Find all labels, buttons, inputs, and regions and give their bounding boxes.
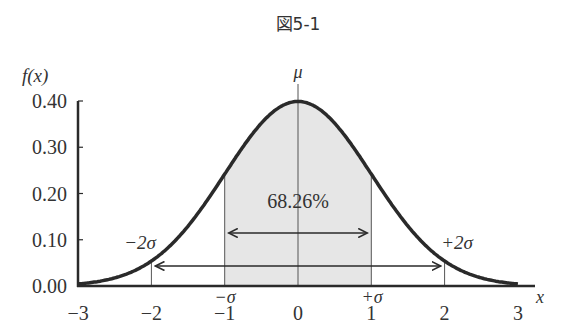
- y-tick-label: 0.10: [32, 229, 67, 251]
- x-tick-label: 3: [513, 302, 523, 324]
- x-tick-label: −1: [214, 302, 235, 324]
- x-tick-label: 1: [366, 302, 376, 324]
- x-tick-label: 2: [440, 302, 450, 324]
- y-tick-label: 0.40: [32, 90, 67, 112]
- x-axis-label: x: [535, 287, 544, 307]
- minus-2sigma-label: −2σ: [124, 232, 156, 253]
- x-tick-label: 0: [293, 302, 303, 324]
- x-tick-label: −3: [67, 302, 88, 324]
- plus-2sigma-label: +2σ: [441, 232, 473, 253]
- y-tick-label: 0.30: [32, 136, 67, 158]
- y-tick-label: 0.20: [32, 183, 67, 205]
- x-axis-ticks: −3−2−10123: [67, 302, 522, 324]
- y-axis-ticks: 0.400.300.200.100.00: [32, 90, 83, 297]
- y-axis-label: f(x): [22, 65, 48, 87]
- mu-label: μ: [292, 62, 302, 82]
- y-tick-label: 0.00: [32, 275, 67, 297]
- x-tick-label: −2: [141, 302, 162, 324]
- center-percentage-label: 68.26%: [267, 190, 329, 212]
- normal-distribution-chart: f(x) x μ 68.26% −σ +σ −2σ +2σ 0.400.300.…: [0, 0, 579, 336]
